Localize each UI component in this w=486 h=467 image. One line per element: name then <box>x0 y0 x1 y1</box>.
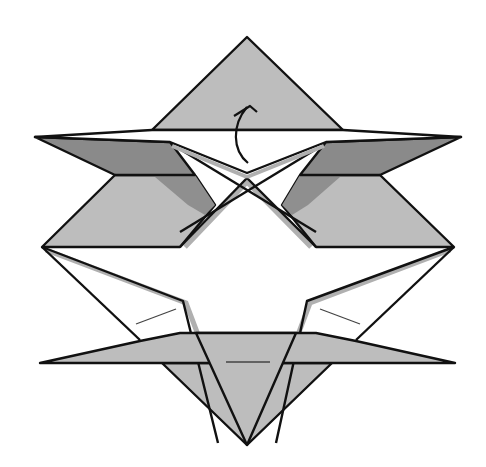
origami-diagram <box>0 0 486 467</box>
origami-diagram-svg <box>0 0 486 467</box>
top-triangle-flap <box>152 37 343 130</box>
